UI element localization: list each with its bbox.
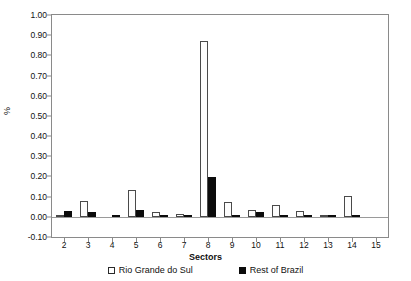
legend-swatch-filled-square-icon bbox=[239, 267, 246, 274]
y-tick-mark bbox=[47, 196, 51, 197]
bar-rest-of-brazil bbox=[136, 210, 144, 216]
x-tick-mark bbox=[208, 238, 209, 242]
bar-rio-grande-do-sul bbox=[344, 196, 352, 217]
y-tick-label: 0.60 bbox=[30, 91, 47, 100]
x-tick-mark bbox=[304, 238, 305, 242]
bar-rio-grande-do-sul bbox=[224, 202, 232, 217]
bar-rest-of-brazil bbox=[208, 177, 216, 217]
y-tick-mark bbox=[47, 216, 51, 217]
bar-rio-grande-do-sul bbox=[200, 41, 208, 217]
bar-rio-grande-do-sul bbox=[320, 215, 328, 217]
bar-rest-of-brazil bbox=[160, 215, 168, 217]
y-tick-label: 0.00 bbox=[30, 212, 47, 221]
bar-rio-grande-do-sul bbox=[248, 210, 256, 217]
x-tick-mark bbox=[160, 238, 161, 242]
x-tick-mark bbox=[136, 238, 137, 242]
legend-item: Rio Grande do Sul bbox=[108, 265, 193, 275]
x-tick-mark bbox=[256, 238, 257, 242]
y-tick-mark bbox=[47, 115, 51, 116]
x-tick-mark bbox=[64, 238, 65, 242]
y-tick-label: 1.00 bbox=[30, 11, 47, 20]
x-axis-title: Sectors bbox=[0, 252, 411, 262]
bar-rio-grande-do-sul bbox=[128, 190, 136, 217]
x-tick-mark bbox=[352, 238, 353, 242]
y-tick-label: 0.40 bbox=[30, 132, 47, 141]
y-axis-labels: 1.000.900.800.700.600.500.400.300.200.10… bbox=[10, 0, 47, 281]
bar-chart: 1.000.900.800.700.600.500.400.300.200.10… bbox=[0, 0, 411, 281]
y-tick-label: 0.80 bbox=[30, 51, 47, 60]
y-tick-mark bbox=[47, 156, 51, 157]
bar-rest-of-brazil bbox=[352, 215, 360, 217]
y-tick-label: 0.10 bbox=[30, 192, 47, 201]
bar-rio-grande-do-sul bbox=[176, 214, 184, 216]
bar-rest-of-brazil bbox=[256, 212, 264, 216]
bar-rest-of-brazil bbox=[64, 211, 72, 217]
y-tick-mark bbox=[47, 35, 51, 36]
x-tick-mark bbox=[328, 238, 329, 242]
y-tick-mark bbox=[47, 15, 51, 16]
y-axis-title: % bbox=[2, 107, 12, 115]
y-tick-mark bbox=[47, 55, 51, 56]
bar-rest-of-brazil bbox=[232, 215, 240, 217]
bar-rest-of-brazil bbox=[304, 215, 312, 217]
bar-rio-grande-do-sul bbox=[272, 205, 280, 217]
bar-rio-grande-do-sul bbox=[152, 212, 160, 217]
plot-inner bbox=[52, 15, 388, 237]
zero-baseline bbox=[52, 217, 388, 218]
y-tick-mark bbox=[47, 75, 51, 76]
y-tick-mark bbox=[47, 237, 51, 238]
bar-rio-grande-do-sul bbox=[80, 201, 88, 217]
x-tick-mark bbox=[184, 238, 185, 242]
bar-rest-of-brazil bbox=[112, 215, 120, 217]
bar-rest-of-brazil bbox=[328, 215, 336, 217]
y-tick-label: 0.30 bbox=[30, 152, 47, 161]
bar-rio-grande-do-sul bbox=[296, 211, 304, 217]
bar-rest-of-brazil bbox=[88, 212, 96, 216]
y-tick-label: 0.90 bbox=[30, 31, 47, 40]
y-tick-mark bbox=[47, 176, 51, 177]
bar-rio-grande-do-sul bbox=[56, 215, 64, 217]
y-tick-mark bbox=[47, 95, 51, 96]
legend-label: Rest of Brazil bbox=[250, 265, 304, 275]
chart-legend: Rio Grande do SulRest of Brazil bbox=[0, 265, 411, 275]
legend-item: Rest of Brazil bbox=[239, 265, 304, 275]
y-tick-label: -0.10 bbox=[28, 233, 47, 242]
y-tick-label: 0.50 bbox=[30, 111, 47, 120]
legend-swatch-hollow-square-icon bbox=[108, 267, 115, 274]
x-tick-mark bbox=[376, 238, 377, 242]
y-tick-label: 0.20 bbox=[30, 172, 47, 181]
x-tick-mark bbox=[88, 238, 89, 242]
x-tick-mark bbox=[232, 238, 233, 242]
plot-area bbox=[51, 14, 389, 238]
y-tick-label: 0.70 bbox=[30, 71, 47, 80]
bar-rest-of-brazil bbox=[184, 215, 192, 217]
x-tick-mark bbox=[112, 238, 113, 242]
x-tick-mark bbox=[280, 238, 281, 242]
bar-rest-of-brazil bbox=[280, 215, 288, 217]
y-tick-mark bbox=[47, 136, 51, 137]
legend-label: Rio Grande do Sul bbox=[119, 265, 193, 275]
